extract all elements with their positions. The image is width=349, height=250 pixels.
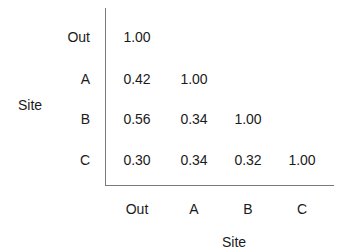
column-label: B — [223, 201, 273, 217]
matrix-cell: 0.30 — [112, 152, 162, 168]
row-label: B — [50, 111, 90, 127]
matrix-cell: 1.00 — [277, 152, 327, 168]
row-label: A — [50, 71, 90, 87]
row-label: Out — [50, 29, 90, 45]
x-axis-line — [105, 185, 334, 186]
matrix-cell: 0.32 — [223, 152, 273, 168]
column-label: C — [277, 201, 327, 217]
x-axis-label: Site — [222, 234, 246, 250]
column-label: A — [169, 201, 219, 217]
matrix-cell: 1.00 — [112, 29, 162, 45]
matrix-cell: 1.00 — [169, 71, 219, 87]
y-axis-line — [105, 8, 106, 186]
matrix-cell: 1.00 — [223, 111, 273, 127]
column-label: Out — [112, 201, 162, 217]
matrix-cell: 0.56 — [112, 111, 162, 127]
row-label: C — [50, 152, 90, 168]
y-axis-label: Site — [18, 97, 42, 113]
matrix-cell: 0.34 — [169, 111, 219, 127]
matrix-cell: 0.42 — [112, 71, 162, 87]
matrix-cell: 0.34 — [169, 152, 219, 168]
